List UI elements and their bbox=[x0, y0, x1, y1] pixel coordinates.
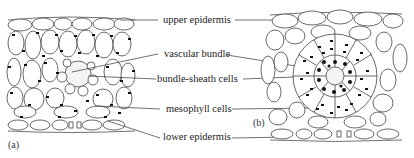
panel-b-drawing bbox=[261, 10, 407, 142]
upper-epidermis-a bbox=[8, 17, 135, 31]
vascular-bundle-b bbox=[326, 67, 344, 85]
label-lower-epidermis: lower epidermis bbox=[163, 131, 231, 143]
lower-epidermis-a bbox=[8, 120, 135, 133]
label-vascular-bundle: vascular bundle bbox=[164, 48, 230, 60]
lower-epidermis-b bbox=[270, 129, 402, 142]
leaf-anatomy-figure: upper epidermis vascular bundle bundle-s… bbox=[0, 0, 414, 158]
label-mesophyll-cells: mesophyll cells bbox=[166, 103, 232, 115]
vascular-bundle-a bbox=[57, 59, 98, 96]
panel-b-tag: (b) bbox=[253, 117, 265, 128]
label-bundle-sheath-cells: bundle-sheath cells bbox=[157, 73, 238, 85]
upper-epidermis-b bbox=[270, 10, 403, 28]
label-upper-epidermis: upper epidermis bbox=[163, 14, 231, 26]
panel-a-tag: (a) bbox=[8, 139, 19, 150]
